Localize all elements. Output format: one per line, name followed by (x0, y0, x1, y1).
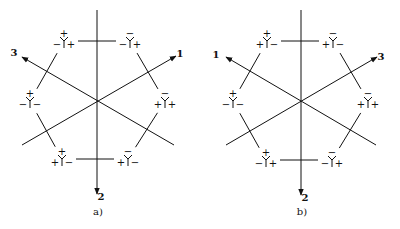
vertex-node: −+− (322, 28, 344, 50)
sign-left: − (321, 158, 329, 169)
sign-top: + (262, 147, 270, 158)
sign-right: + (133, 39, 141, 50)
sign-left: + (256, 39, 264, 50)
axis-label: 3 (378, 51, 385, 62)
sign-right: − (33, 99, 41, 110)
sign-right: + (335, 158, 343, 169)
sign-left: − (19, 99, 27, 110)
sign-top: + (229, 88, 237, 99)
axis-2: 2 (97, 10, 105, 202)
sign-top: − (126, 28, 134, 39)
vertex-node: −−+ (321, 147, 343, 169)
axis-label: 3 (11, 47, 18, 58)
sign-left: + (51, 157, 59, 168)
sign-top: + (26, 88, 34, 99)
hexagon-edge (137, 53, 158, 89)
hexagon-edge (37, 113, 55, 146)
sign-left: + (322, 39, 330, 50)
sign-top: − (364, 88, 372, 99)
vertex-node: +−− (222, 88, 244, 110)
sign-right: − (336, 39, 344, 50)
hexagon-edge (339, 113, 360, 148)
sign-top: − (328, 147, 336, 158)
sign-right: − (270, 39, 278, 50)
sign-left: − (53, 39, 61, 50)
sign-left: − (222, 99, 230, 110)
sign-left: + (154, 99, 162, 110)
axis-label: 2 (302, 192, 309, 203)
hexagon-edge (136, 113, 158, 147)
panel-a: 123+−+−−++−−−++++−−+−a) (11, 10, 184, 217)
sign-left: − (119, 39, 127, 50)
vertex-node: +−− (19, 88, 41, 110)
panel-caption: a) (93, 206, 103, 217)
sign-top: − (161, 88, 169, 99)
panel-caption: b) (297, 206, 307, 217)
sign-top: − (124, 146, 132, 157)
vertex-node: ++− (256, 28, 278, 50)
panel-b: 123++−−+−+−−−+++−+−−+b) (213, 10, 385, 217)
axis-label: 1 (213, 49, 220, 60)
sign-right: + (269, 158, 277, 169)
hexagon-edge (340, 53, 361, 89)
sign-top: + (60, 28, 68, 39)
vertex-node: −+− (117, 146, 139, 168)
hexagon-edge (240, 113, 259, 148)
sign-right: − (131, 157, 139, 168)
sign-right: + (67, 39, 75, 50)
axis-3: 3 (11, 47, 174, 146)
vertex-node: +−+ (255, 147, 277, 169)
sign-top: + (58, 146, 66, 157)
diagram-canvas: 123+−+−−++−−−++++−−+−a) 123++−−+−+−−−+++… (0, 0, 400, 229)
vertex-node: +−+ (53, 28, 75, 50)
sign-right: + (168, 99, 176, 110)
vertex-node: −++ (357, 88, 379, 110)
vertex-node: ++− (51, 146, 73, 168)
sign-top: + (263, 28, 271, 39)
vertex-node: −−+ (119, 28, 141, 50)
vertex-node: −++ (154, 88, 176, 110)
axis-3: 3 (226, 51, 385, 146)
sign-right: − (65, 157, 73, 168)
sign-left: + (357, 99, 365, 110)
sign-top: − (329, 28, 337, 39)
sign-right: − (236, 99, 244, 110)
sign-left: − (255, 158, 263, 169)
sign-right: + (371, 99, 379, 110)
axis-label: 1 (177, 48, 184, 59)
sign-left: + (117, 157, 125, 168)
axis-2: 2 (301, 10, 309, 203)
axis-label: 2 (98, 191, 105, 202)
